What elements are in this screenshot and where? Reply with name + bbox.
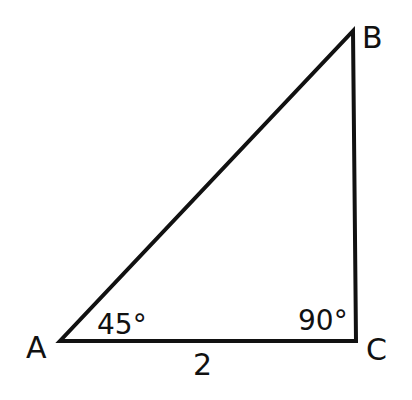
side-label-ac: 2 — [193, 347, 212, 382]
vertex-label-a: A — [26, 330, 47, 365]
vertex-label-b: B — [362, 20, 383, 55]
triangle-abc — [60, 31, 356, 341]
angle-label-a: 45° — [97, 308, 147, 341]
vertex-label-c: C — [366, 332, 387, 367]
angle-label-c: 90° — [298, 304, 348, 337]
triangle-diagram: A B C 45° 90° 2 — [0, 0, 412, 400]
